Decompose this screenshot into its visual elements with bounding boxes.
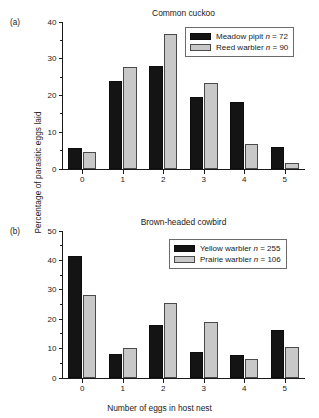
x-axis-label: Number of eggs in host nest [0,403,319,413]
x-tick-label: 4 [234,384,254,393]
tick-mark [59,231,63,232]
x-tick-label: 5 [275,384,295,393]
bar [123,348,137,378]
tick-mark [204,379,205,383]
bar [164,303,178,378]
panel-b-x-axis [62,378,305,379]
tick-mark [123,379,124,383]
y-tick-label: 40 [48,17,57,28]
bar [68,256,82,378]
tick-mark [60,150,62,151]
figure-two-panel-bar-chart: Percentage of parasitic eggs laid (a) Co… [0,0,319,418]
tick-mark [59,289,63,290]
bar [68,148,82,169]
bar [245,144,259,169]
x-tick-label: 0 [72,175,92,184]
tick-mark [60,113,62,114]
bar [164,34,178,169]
tick-mark [59,22,63,23]
bar [230,355,244,378]
tick-mark [60,275,62,276]
panel-a-common-cuckoo: (a) Common cuckoo 010203040 012345 Meado… [0,0,319,209]
bar [83,152,97,169]
y-tick-label: 30 [48,284,57,295]
bar [245,359,259,378]
y-tick-label: 20 [48,90,57,101]
tick-mark [82,170,83,174]
bar [204,322,218,378]
legend-swatch-prairie-warbler [174,256,195,263]
panel-b-title: Brown-headed cowbird [62,217,305,227]
y-tick-label: 10 [48,127,57,138]
legend-label-reed-warbler: Reed warbler n = 90 [216,43,288,52]
x-tick-label: 1 [113,175,133,184]
legend-swatch-reed-warbler [190,44,211,51]
bar [271,147,285,169]
tick-mark [59,348,63,349]
panel-a-legend: Meadow pipit n = 72 Reed warbler n = 90 [185,27,294,57]
tick-mark [244,379,245,383]
y-tick-label: 40 [48,255,57,266]
y-tick-label: 10 [48,343,57,354]
x-tick-label: 2 [153,384,173,393]
legend-swatch-yellow-warbler [174,245,195,252]
tick-mark [163,170,164,174]
tick-mark [59,58,63,59]
y-tick-label: 20 [48,314,57,325]
legend-label-yellow-warbler: Yellow warbler n = 255 [200,244,280,253]
panel-b-y-axis [62,231,63,379]
x-tick-label: 5 [275,175,295,184]
tick-mark [285,379,286,383]
panel-b-legend: Yellow warbler n = 255 Prairie warbler n… [169,239,287,269]
legend-swatch-meadow-pipit [190,33,211,40]
tick-mark [82,379,83,383]
bar [230,102,244,169]
x-tick-label: 3 [194,384,214,393]
tick-mark [59,95,63,96]
x-tick-label: 4 [234,175,254,184]
x-tick-label: 2 [153,175,173,184]
tick-mark [60,245,62,246]
tick-mark [59,260,63,261]
bar [123,67,137,169]
tick-mark [60,333,62,334]
panel-a-tag: (a) [10,18,20,27]
legend-item: Meadow pipit n = 72 [190,31,288,42]
y-tick-label: 50 [48,226,57,237]
legend-item: Prairie warbler n = 106 [174,254,281,265]
bar [109,81,123,169]
tick-mark [285,170,286,174]
bar [204,83,218,169]
y-tick-label: 30 [48,53,57,64]
legend-item: Yellow warbler n = 255 [174,243,281,254]
legend-label-prairie-warbler: Prairie warbler n = 106 [200,255,281,264]
bar [190,352,204,378]
panel-a-x-axis [62,169,305,170]
tick-mark [59,378,63,379]
panel-a-title: Common cuckoo [62,8,305,18]
bar [285,347,299,378]
x-tick-label: 3 [194,175,214,184]
tick-mark [60,40,62,41]
bar [109,354,123,378]
y-tick-label: 0 [52,164,56,175]
bar [271,330,285,378]
bar [149,66,163,169]
tick-mark [59,132,63,133]
tick-mark [204,170,205,174]
tick-mark [59,319,63,320]
bar [149,325,163,378]
tick-mark [60,363,62,364]
tick-mark [60,304,62,305]
x-tick-label: 0 [72,384,92,393]
legend-label-meadow-pipit: Meadow pipit n = 72 [216,32,288,41]
panel-a-y-axis [62,22,63,170]
panel-b-tag: (b) [10,227,20,236]
bar [285,163,299,169]
bar [190,97,204,169]
bar [83,295,97,378]
legend-item: Reed warbler n = 90 [190,42,288,53]
tick-mark [59,169,63,170]
tick-mark [244,170,245,174]
y-tick-label: 0 [52,373,56,384]
